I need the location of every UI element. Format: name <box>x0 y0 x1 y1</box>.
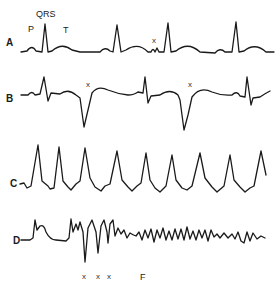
lead-label-b: B <box>6 93 13 104</box>
wave-label-p: P <box>28 24 34 34</box>
pvc-marker-b-1: x <box>86 80 90 89</box>
pvc-marker-b-2: x <box>188 80 192 89</box>
ecg-trace-c <box>20 145 266 192</box>
trace-a: A P QRS T x <box>6 9 274 53</box>
ecg-figure: A P QRS T x B x x C D x x x F <box>0 0 279 293</box>
ecg-trace-d <box>21 219 265 262</box>
trace-d: D x x x F <box>13 219 265 282</box>
pvc-marker-d-3: x <box>107 272 111 281</box>
lead-label-a: A <box>6 37 13 48</box>
pvc-marker-d-1: x <box>82 272 86 281</box>
trace-b: B x x <box>6 77 270 130</box>
lead-label-d: D <box>13 235 20 246</box>
fibrillation-label: F <box>140 272 146 282</box>
wave-label-t: T <box>63 25 69 35</box>
trace-c: C <box>10 145 266 192</box>
ecg-trace-b <box>21 77 270 130</box>
wave-label-qrs: QRS <box>36 9 56 19</box>
lead-label-c: C <box>10 178 17 189</box>
premature-beat-marker-a: x <box>152 36 156 45</box>
pvc-marker-d-2: x <box>96 272 100 281</box>
ecg-trace-a <box>21 22 274 53</box>
